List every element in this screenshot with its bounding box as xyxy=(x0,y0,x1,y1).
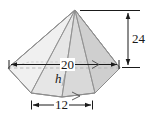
variable-label-h: h xyxy=(55,72,62,85)
dimension-label-width-20: 20 xyxy=(60,58,75,71)
geometry-figure-hexagonal-pyramid: 20 24 12 h xyxy=(0,0,146,114)
pyramid-solid xyxy=(8,10,120,97)
dimension-label-height-24: 24 xyxy=(131,32,146,45)
dimension-label-depth-12: 12 xyxy=(54,98,69,111)
